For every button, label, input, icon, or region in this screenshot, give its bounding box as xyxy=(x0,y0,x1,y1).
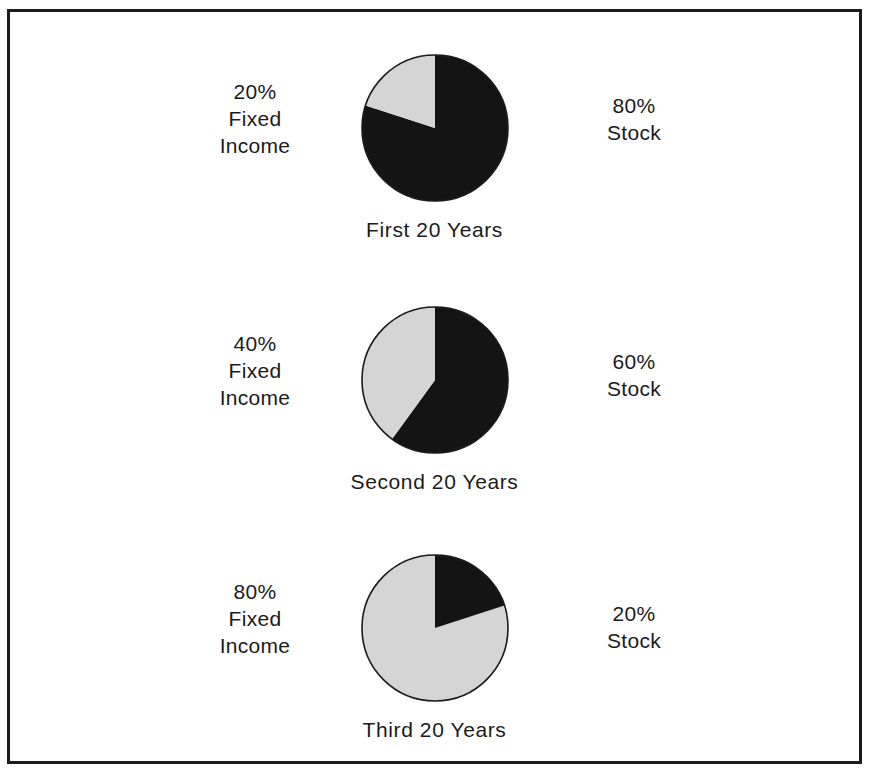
pie-left-label-0: 20% Fixed Income xyxy=(180,78,330,159)
pie-left-label-1: 40% Fixed Income xyxy=(180,330,330,411)
pie-right-percent-2: 20% xyxy=(559,600,709,627)
pie-chart-block-third-20-years: 80% Fixed Income 20% Stock Third 20 Year… xyxy=(10,542,859,772)
pie-svg-0 xyxy=(359,52,511,204)
pie-chart-0 xyxy=(359,52,511,204)
pie-left-line2-1: Fixed xyxy=(180,357,330,384)
figure-frame: 20% Fixed Income 80% Stock First 20 Year… xyxy=(7,9,862,764)
pie-caption-2: Third 20 Years xyxy=(10,718,859,742)
pie-chart-1 xyxy=(359,304,511,456)
pie-left-label-2: 80% Fixed Income xyxy=(180,578,330,659)
pie-chart-2 xyxy=(359,552,511,704)
pie-left-percent-0: 20% xyxy=(180,78,330,105)
pie-svg-1 xyxy=(359,304,511,456)
pie-left-line2-0: Fixed xyxy=(180,105,330,132)
pie-left-line3-1: Income xyxy=(180,384,330,411)
pie-chart-block-second-20-years: 40% Fixed Income 60% Stock Second 20 Yea… xyxy=(10,294,859,524)
pie-left-percent-1: 40% xyxy=(180,330,330,357)
pie-right-label-1: 60% Stock xyxy=(559,348,709,402)
pie-left-percent-2: 80% xyxy=(180,578,330,605)
pie-right-line2-2: Stock xyxy=(559,627,709,654)
pie-right-line2-1: Stock xyxy=(559,375,709,402)
pie-left-line3-2: Income xyxy=(180,632,330,659)
pie-svg-2 xyxy=(359,552,511,704)
figure-top-caption xyxy=(10,0,871,8)
pie-left-line3-0: Income xyxy=(180,132,330,159)
pie-right-percent-1: 60% xyxy=(559,348,709,375)
pie-right-line2-0: Stock xyxy=(559,119,709,146)
pie-right-label-2: 20% Stock xyxy=(559,600,709,654)
pie-right-label-0: 80% Stock xyxy=(559,92,709,146)
pie-right-percent-0: 80% xyxy=(559,92,709,119)
pie-caption-0: First 20 Years xyxy=(10,218,859,242)
pie-left-line2-2: Fixed xyxy=(180,605,330,632)
pie-caption-1: Second 20 Years xyxy=(10,470,859,494)
pie-chart-block-first-20-years: 20% Fixed Income 80% Stock First 20 Year… xyxy=(10,42,859,272)
